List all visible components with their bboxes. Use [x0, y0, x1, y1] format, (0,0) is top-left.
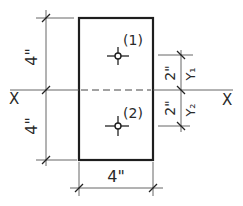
- left-dimension-label-bottom: 4": [22, 117, 41, 135]
- bottom-dimension: 4": [70, 162, 163, 196]
- right-dimension-label-bottom: 2": [162, 100, 178, 115]
- point-2: (2): [105, 105, 143, 136]
- bottom-dimension-label: 4": [107, 167, 125, 186]
- left-dimension-label-top: 4": [22, 48, 41, 66]
- point-2-marker-icon: [115, 123, 121, 129]
- point-1-label: (1): [123, 32, 143, 48]
- left-dimension: 4" 4": [22, 10, 77, 166]
- x-axis-label-left: X: [9, 90, 19, 108]
- y2-label: Y₂: [183, 103, 198, 117]
- point-1: (1): [107, 32, 143, 65]
- y1-label: Y₁: [183, 67, 198, 81]
- cross-section-diagram: X X 4" 4" 2" 2" Y₁ Y₂ 4": [0, 0, 243, 206]
- right-dimension: 2" 2" Y₁ Y₂: [158, 50, 198, 132]
- x-axis-label-right: X: [222, 91, 232, 109]
- point-1-marker-icon: [115, 53, 121, 59]
- point-2-label: (2): [123, 105, 143, 121]
- right-dimension-label-top: 2": [162, 65, 178, 80]
